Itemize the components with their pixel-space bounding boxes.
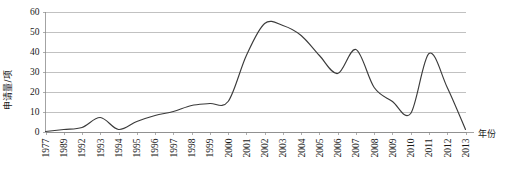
x-tick-label-2000: 2000 [224,138,234,157]
y-axis-title-text: 申请量/项 [2,70,13,109]
x-tick-label-2011: 2011 [424,138,434,157]
x-tick-labels: 1977198919921993199419951996199719981999… [41,138,471,157]
x-tick-label-2005: 2005 [315,138,325,157]
x-tick-label-2003: 2003 [278,138,288,157]
y-axis [43,12,46,133]
y-tick-label-50: 50 [30,27,40,37]
x-axis-title: 年份 [478,128,496,139]
x-tick-label-2009: 2009 [388,138,398,157]
series-line-申请量 [46,21,466,131]
y-tick-label-30: 30 [30,67,40,77]
x-tick-label-2008: 2008 [370,138,380,157]
y-tick-label-40: 40 [30,47,40,57]
x-tick-label-1997: 1997 [169,138,179,157]
x-tick-label-2004: 2004 [297,138,307,157]
y-tick-label-10: 10 [30,107,40,117]
x-tick-label-2002: 2002 [260,138,270,157]
x-tick-label-1996: 1996 [150,138,160,157]
x-tick-label-1993: 1993 [96,138,106,157]
x-tick-label-2013: 2013 [461,138,471,157]
line-chart-figure: 6050403020100 19771989199219931994199519… [0,0,532,175]
x-tick-label-2001: 2001 [242,138,252,157]
y-tick-label-20: 20 [30,87,40,97]
x-tick-label-2006: 2006 [333,138,343,157]
data-series-line [46,21,466,131]
x-tick-label-2007: 2007 [351,138,361,157]
y-axis-title: 申请量/项 [2,70,13,109]
x-axis [46,132,475,135]
x-tick-label-2010: 2010 [406,138,416,157]
gridlines [46,13,466,133]
x-tick-label-1995: 1995 [132,138,142,157]
x-tick-label-1994: 1994 [114,138,124,157]
y-tick-label-60: 60 [30,7,40,17]
y-tick-label-0: 0 [35,127,40,137]
y-tick-labels: 6050403020100 [30,7,40,137]
x-tick-label-1992: 1992 [77,138,87,157]
chart-canvas: 6050403020100 19771989199219931994199519… [0,0,532,175]
x-tick-label-1989: 1989 [59,138,69,157]
x-tick-label-1999: 1999 [205,138,215,157]
x-tick-label-1977: 1977 [41,138,51,157]
x-axis-title-text: 年份 [478,128,496,139]
x-tick-label-1998: 1998 [187,138,197,157]
x-tick-label-2012: 2012 [443,138,453,157]
